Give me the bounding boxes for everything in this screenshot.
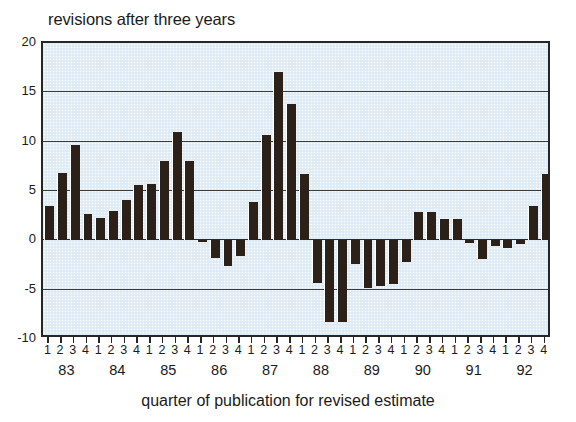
x-quarter-label: 2 xyxy=(209,343,216,357)
bar xyxy=(363,240,373,287)
x-quarter-label: 1 xyxy=(197,343,204,357)
x-quarter-label: 1 xyxy=(502,343,509,357)
bar xyxy=(515,240,525,244)
bar xyxy=(248,202,258,240)
y-tick-label: 0 xyxy=(29,231,36,246)
x-quarter-label: 4 xyxy=(438,343,445,357)
bar xyxy=(95,218,105,241)
bar xyxy=(70,145,80,241)
x-quarter-label: 2 xyxy=(413,343,420,357)
bar xyxy=(299,174,309,240)
x-year-label: 83 xyxy=(58,362,74,378)
x-quarter-label: 4 xyxy=(387,343,394,357)
x-quarter-label: 3 xyxy=(222,343,229,357)
x-quarter-label: 1 xyxy=(44,343,51,357)
x-year-label: 84 xyxy=(109,362,125,378)
y-tick-label: 20 xyxy=(22,34,36,49)
x-quarter-label: 1 xyxy=(298,343,305,357)
x-quarter-label: 4 xyxy=(82,343,89,357)
bar xyxy=(108,211,118,241)
x-quarter-label: 1 xyxy=(247,343,254,357)
bar xyxy=(477,240,487,259)
bar xyxy=(541,174,550,240)
x-quarter-label: 3 xyxy=(69,343,76,357)
bar xyxy=(44,206,54,241)
x-quarter-label: 4 xyxy=(184,343,191,357)
x-quarter-label: 2 xyxy=(311,343,318,357)
bar xyxy=(528,206,538,241)
chart-title: revisions after three years xyxy=(48,10,235,29)
x-year-label: 89 xyxy=(364,362,380,378)
y-tick-label: 5 xyxy=(29,182,36,197)
bar xyxy=(312,240,322,282)
bar xyxy=(197,240,207,242)
bar xyxy=(223,240,233,266)
bar xyxy=(286,104,296,240)
bar xyxy=(210,240,220,258)
x-quarter-label: 4 xyxy=(337,343,344,357)
y-tick-label: -10 xyxy=(17,330,36,345)
x-quarter-label: 2 xyxy=(515,343,522,357)
x-quarter-label: 2 xyxy=(362,343,369,357)
bar xyxy=(375,240,385,285)
chart-figure: revisions after three years 20151050-5-1… xyxy=(0,0,576,422)
bar xyxy=(413,212,423,241)
x-year-label: 90 xyxy=(415,362,431,378)
x-quarter-label: 2 xyxy=(158,343,165,357)
x-quarter-label: 3 xyxy=(426,343,433,357)
bar xyxy=(273,72,283,241)
bar xyxy=(261,135,271,241)
bar xyxy=(83,214,93,241)
x-axis-quarter-labels: 1234123412341234123412341234123412341234 xyxy=(41,343,550,359)
y-tick-label: -5 xyxy=(24,280,36,295)
x-quarter-label: 1 xyxy=(349,343,356,357)
bar xyxy=(337,240,347,322)
bar xyxy=(490,240,500,246)
bar xyxy=(235,240,245,256)
x-quarter-label: 2 xyxy=(260,343,267,357)
x-quarter-label: 3 xyxy=(527,343,534,357)
bar xyxy=(172,132,182,241)
bar xyxy=(159,161,169,240)
x-quarter-label: 1 xyxy=(400,343,407,357)
x-quarter-label: 4 xyxy=(235,343,242,357)
bar xyxy=(324,240,334,322)
x-year-label: 87 xyxy=(262,362,278,378)
x-axis-title: quarter of publication for revised estim… xyxy=(0,392,576,410)
bar xyxy=(350,240,360,264)
bar xyxy=(464,240,474,243)
x-quarter-label: 1 xyxy=(95,343,102,357)
y-axis: 20151050-5-10 xyxy=(0,41,36,337)
x-year-label: 86 xyxy=(211,362,227,378)
bar xyxy=(133,185,143,240)
x-quarter-label: 2 xyxy=(108,343,115,357)
bar xyxy=(439,219,449,241)
bar xyxy=(388,240,398,283)
bar xyxy=(57,173,67,240)
x-quarter-label: 1 xyxy=(146,343,153,357)
bar xyxy=(146,184,156,240)
x-quarter-label: 4 xyxy=(540,343,547,357)
x-quarter-label: 2 xyxy=(464,343,471,357)
x-year-label: 91 xyxy=(466,362,482,378)
x-quarter-label: 3 xyxy=(324,343,331,357)
x-quarter-label: 4 xyxy=(133,343,140,357)
bar xyxy=(502,240,512,248)
bar xyxy=(121,200,131,240)
x-quarter-label: 1 xyxy=(451,343,458,357)
x-year-label: 92 xyxy=(516,362,532,378)
x-year-label: 88 xyxy=(313,362,329,378)
x-quarter-label: 3 xyxy=(273,343,280,357)
bar xyxy=(452,219,462,241)
bars-layer xyxy=(43,43,548,335)
x-quarter-label: 3 xyxy=(171,343,178,357)
bar xyxy=(184,161,194,240)
x-axis-year-labels: 83848586878889909192 xyxy=(41,362,550,382)
x-year-label: 85 xyxy=(160,362,176,378)
x-quarter-label: 3 xyxy=(375,343,382,357)
x-quarter-label: 3 xyxy=(477,343,484,357)
bar xyxy=(401,240,411,262)
plot-area xyxy=(41,41,550,337)
y-tick-label: 10 xyxy=(22,132,36,147)
y-tick-label: 15 xyxy=(22,83,36,98)
